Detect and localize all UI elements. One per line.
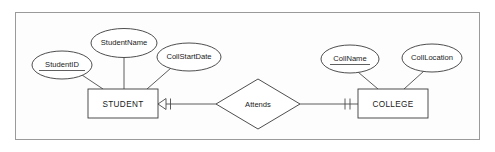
- attribute-student-id[interactable]: StudentID: [32, 51, 92, 79]
- attribute-coll-location[interactable]: CollLocation: [402, 44, 462, 72]
- relationship-attends-label: Attends: [245, 100, 271, 109]
- entity-college[interactable]: COLLEGE: [358, 89, 428, 118]
- attribute-coll-start-date[interactable]: CollStartDate: [157, 43, 221, 71]
- attribute-coll-start-date-label: CollStartDate: [166, 52, 211, 61]
- attribute-student-name[interactable]: StudentName: [91, 29, 157, 58]
- er-diagram-svg: STUDENT COLLEGE Attends StudentID Studen…: [0, 0, 495, 152]
- attribute-coll-name-label: CollName: [333, 54, 366, 63]
- attribute-student-id-label: StudentID: [45, 60, 79, 69]
- attribute-student-name-label: StudentName: [101, 38, 147, 47]
- attribute-coll-name[interactable]: CollName: [321, 45, 379, 73]
- er-diagram-canvas: STUDENT COLLEGE Attends StudentID Studen…: [0, 0, 495, 152]
- attribute-coll-location-label: CollLocation: [411, 53, 453, 62]
- entity-college-label: COLLEGE: [372, 100, 413, 109]
- entity-student-label: STUDENT: [102, 100, 143, 109]
- entity-student[interactable]: STUDENT: [88, 89, 158, 118]
